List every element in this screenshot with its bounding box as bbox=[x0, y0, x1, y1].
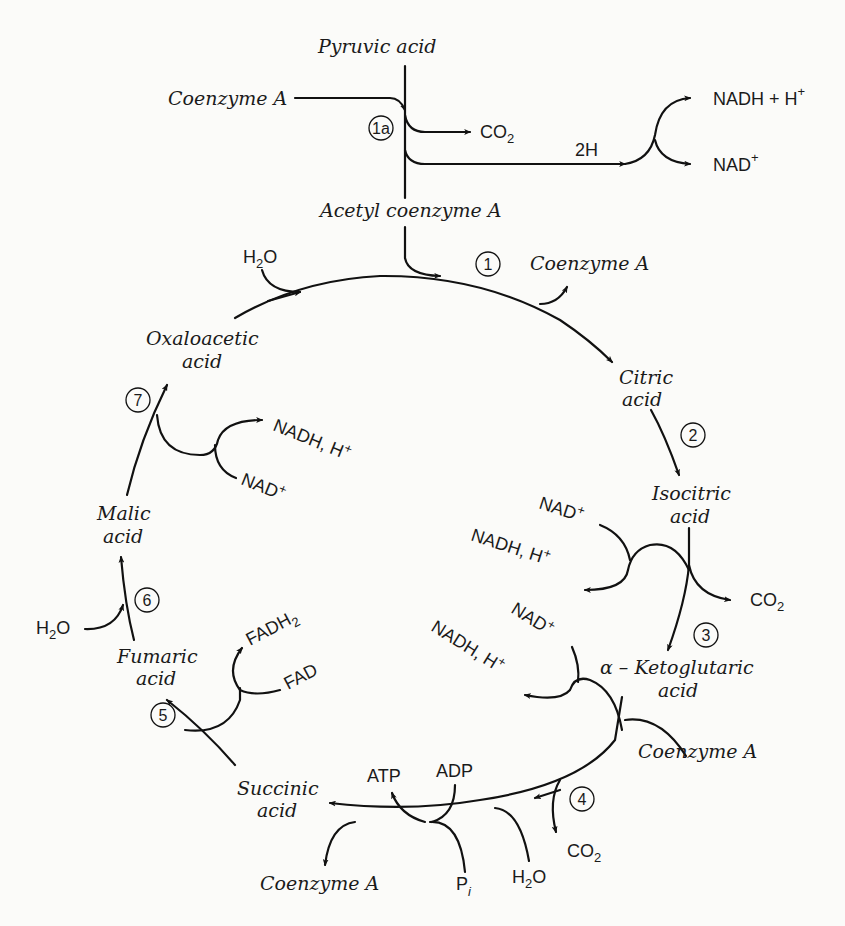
step4-coa-out-arrow bbox=[325, 822, 355, 865]
citric-acid-label-2: acid bbox=[622, 388, 662, 410]
nadh-plus-h-label: NADH + H+ bbox=[713, 84, 805, 109]
acetyl-coa-label: Acetyl coenzyme A bbox=[318, 199, 501, 221]
step4-nad-in-arrow bbox=[572, 647, 578, 682]
pyruvic-acid-label: Pyruvic acid bbox=[317, 35, 437, 57]
malic-acid-label-1: Malic bbox=[96, 502, 151, 524]
step-6: 6 H2O Malic acid bbox=[36, 502, 159, 642]
step1-coa-out-arrow bbox=[540, 287, 567, 304]
oxaloacetic-acid-label-2: acid bbox=[182, 350, 222, 372]
step3-nadh-out-arrow bbox=[585, 544, 689, 590]
step-1a-label: 1a bbox=[372, 120, 390, 137]
step-7-label: 7 bbox=[134, 392, 143, 409]
step5-fadh2-out-arrow bbox=[233, 648, 280, 694]
step3-co2-out-arrow bbox=[689, 565, 730, 600]
step7-nadh-label: NADH, H+ bbox=[271, 412, 355, 464]
arc-succinic-to-fumaric bbox=[167, 700, 235, 765]
step3-nadh-label: NADH, H+ bbox=[469, 522, 554, 569]
step-2: Citric acid 2 Isocitric acid bbox=[619, 366, 731, 527]
step4-nad-label: NAD+ bbox=[508, 596, 559, 640]
nadh-out-arrow bbox=[625, 98, 690, 164]
step1-h2o-in-arrow bbox=[262, 270, 300, 292]
step7-nad-in-arrow bbox=[215, 445, 236, 478]
step4-adp-in-arrow bbox=[432, 785, 455, 822]
step5-fad-branch bbox=[185, 688, 240, 731]
step4-h2o-label: H2O bbox=[512, 867, 546, 891]
step7-nadh-out-arrow bbox=[157, 415, 262, 455]
step-3-label: 3 bbox=[702, 627, 711, 644]
arc-isocitric-to-ketoglutarate bbox=[668, 528, 689, 650]
succinic-acid-label-1: Succinic bbox=[237, 777, 319, 799]
step4-adp-label: ADP bbox=[436, 761, 473, 781]
ketoglutaric-acid-label-2: acid bbox=[658, 679, 698, 701]
step3-nad-label: NAD+ bbox=[537, 490, 587, 526]
step3-co2-label: CO2 bbox=[750, 590, 784, 614]
ketoglutaric-acid-label-1: α – Ketoglutaric bbox=[600, 656, 754, 678]
step4-coa-out-label: Coenzyme A bbox=[260, 872, 379, 894]
step-3: NAD+ NADH, H+ CO2 3 α – Ketoglutaric aci… bbox=[469, 490, 784, 701]
step5-fadh2-label: FADH2 bbox=[242, 606, 302, 653]
step-5-label: 5 bbox=[159, 707, 168, 724]
step4-h2o-in-arrow bbox=[495, 808, 529, 861]
step-6-label: 6 bbox=[143, 592, 152, 609]
arc-fumaric-to-malic bbox=[121, 557, 134, 640]
acetyl-coa-arrow bbox=[405, 227, 440, 276]
pyruvate-entry: Pyruvic acid Coenzyme A 1a CO2 2H NADH +… bbox=[168, 35, 805, 276]
step-4-label: 4 bbox=[578, 791, 587, 808]
step4-co2-label: CO2 bbox=[567, 841, 601, 865]
step4-co2-out-arrow bbox=[553, 780, 560, 832]
step4-pi-label: Pi bbox=[456, 874, 472, 899]
two-h-label: 2H bbox=[575, 140, 598, 160]
step-2-label: 2 bbox=[689, 427, 698, 444]
coenzyme-a-in-arrow bbox=[295, 98, 405, 110]
arc-oxaloacetic-to-citric bbox=[235, 276, 612, 362]
isocitric-acid-label-2: acid bbox=[670, 505, 710, 527]
citric-acid-label-1: Citric bbox=[619, 366, 673, 388]
fumaric-acid-label-1: Fumaric bbox=[116, 645, 198, 667]
step4-coa-in-label: Coenzyme A bbox=[638, 740, 757, 762]
step-7: 7 NADH, H+ NAD+ Oxaloacetic acid bbox=[126, 327, 355, 505]
step6-h2o-in-arrow bbox=[85, 605, 123, 629]
step3-nad-in-arrow bbox=[600, 525, 630, 560]
step1-coa-out-label: Coenzyme A bbox=[530, 252, 649, 274]
malic-acid-label-2: acid bbox=[103, 525, 143, 547]
arc-h2o-marker bbox=[268, 292, 300, 301]
step4-pi-in-arrow bbox=[430, 822, 465, 872]
step4-nadh-out-arrow bbox=[525, 679, 622, 730]
co2-out-label: CO2 bbox=[480, 122, 514, 146]
krebs-cycle-diagram: Pyruvic acid Coenzyme A 1a CO2 2H NADH +… bbox=[0, 0, 845, 926]
isocitric-acid-label-1: Isocitric bbox=[651, 482, 731, 504]
oxaloacetic-acid-label-1: Oxaloacetic bbox=[146, 327, 259, 349]
step-1-label: 1 bbox=[484, 256, 493, 273]
step-1: H2O 1 Coenzyme A bbox=[243, 247, 649, 304]
step4-atp-label: ATP bbox=[367, 766, 401, 786]
step7-nad-label: NAD+ bbox=[239, 466, 290, 504]
step-4: NAD+ NADH, H+ Coenzyme A 4 CO2 H2O Pi AD… bbox=[260, 596, 757, 899]
step5-fad-label: FAD bbox=[280, 659, 320, 693]
fumaric-acid-label-2: acid bbox=[136, 667, 176, 689]
co2-out-arrow bbox=[405, 115, 470, 132]
nad-out-arrow bbox=[655, 140, 690, 164]
step-5: Succinic acid 5 FADH2 FAD Fumaric acid bbox=[116, 606, 321, 821]
coenzyme-a-in-label: Coenzyme A bbox=[168, 87, 287, 109]
nad-plus-label: NAD+ bbox=[713, 150, 759, 175]
step1-h2o-label: H2O bbox=[243, 247, 277, 271]
step6-h2o-label: H2O bbox=[36, 618, 70, 642]
arc-citric-to-isocitric bbox=[651, 410, 679, 475]
succinic-acid-label-2: acid bbox=[257, 799, 297, 821]
step4-nadh-label: NADH, H+ bbox=[428, 614, 509, 677]
